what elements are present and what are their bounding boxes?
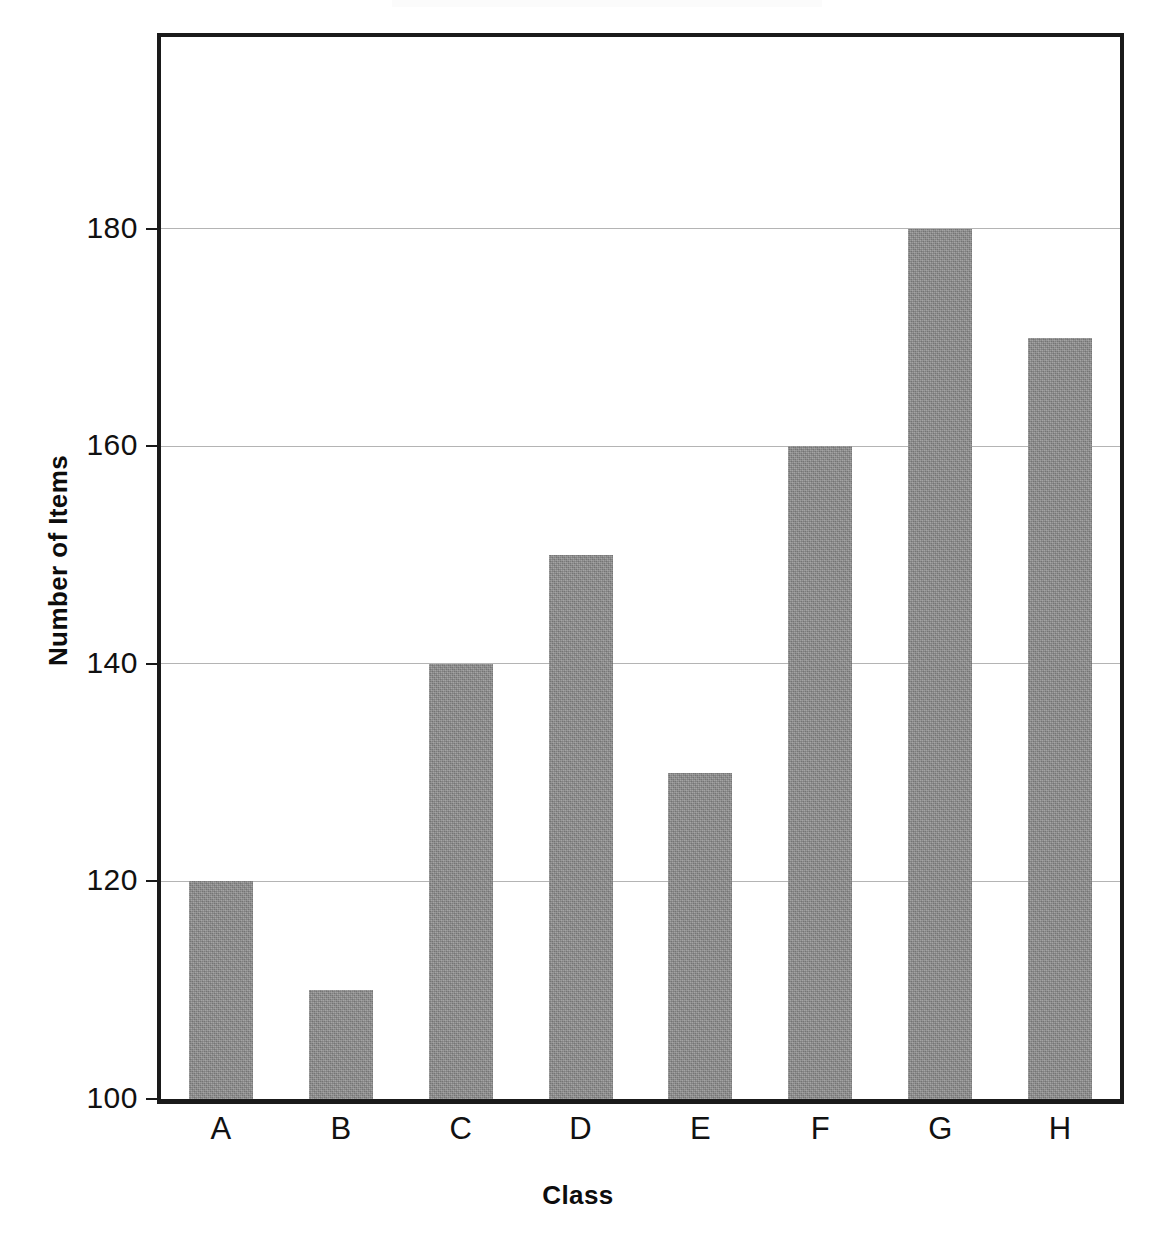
axis-frame-top	[157, 33, 1124, 37]
bar-G	[908, 229, 972, 1099]
bar-H	[1028, 338, 1092, 1099]
x-tick-label-C: C	[401, 1113, 521, 1144]
y-tick-mark-160	[146, 445, 161, 447]
bar-D	[549, 555, 613, 1099]
x-tick-label-E: E	[640, 1113, 760, 1144]
axis-frame-bottom	[157, 1099, 1124, 1104]
gridline-140	[161, 663, 1124, 664]
x-tick-label-B: B	[281, 1113, 401, 1144]
bar-B	[309, 990, 373, 1099]
gridline-160	[161, 446, 1124, 447]
x-tick-label-D: D	[521, 1113, 641, 1144]
x-tick-label-F: F	[760, 1113, 880, 1144]
scan-artifact	[392, 0, 822, 7]
axis-frame-left	[157, 33, 161, 1103]
gridline-180	[161, 228, 1124, 229]
y-tick-mark-140	[146, 663, 161, 665]
y-tick-label-180: 180	[18, 213, 138, 243]
y-tick-label-140: 140	[18, 648, 138, 678]
bar-F	[788, 446, 852, 1099]
x-tick-label-A: A	[161, 1113, 281, 1144]
y-tick-mark-120	[146, 880, 161, 882]
y-tick-mark-100	[146, 1098, 161, 1100]
y-tick-mark-180	[146, 228, 161, 230]
x-tick-label-G: G	[880, 1113, 1000, 1144]
gridline-120	[161, 881, 1124, 882]
bar-C	[429, 664, 493, 1099]
x-tick-label-H: H	[1000, 1113, 1120, 1144]
bar-E	[668, 773, 732, 1099]
y-axis-title: Number of Items	[43, 411, 74, 711]
x-axis-title: Class	[0, 1180, 1156, 1211]
bar-A	[189, 881, 253, 1099]
y-tick-label-120: 120	[18, 865, 138, 895]
y-tick-label-160: 160	[18, 430, 138, 460]
axis-frame-right	[1120, 33, 1124, 1103]
bar-chart-figure: 100120140160180 ABCDEFGH Number of Items…	[0, 0, 1156, 1234]
y-tick-label-100: 100	[18, 1083, 138, 1113]
plot-area	[157, 33, 1124, 1099]
